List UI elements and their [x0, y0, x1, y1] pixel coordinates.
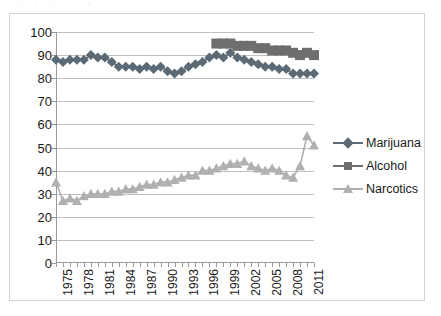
chart-frame: 1009080706050403020100 19751978198119841… — [9, 13, 425, 301]
x-axis-tick-label: 1993 — [187, 269, 201, 296]
x-axis-tick-mark — [209, 263, 210, 267]
legend-item-alcohol[interactable]: Alcohol — [333, 155, 407, 177]
diamond-marker-icon — [342, 137, 353, 148]
x-axis-tick-mark — [84, 263, 85, 267]
y-axis-tick-label: 70 — [38, 94, 52, 109]
x-axis-tick-label: 2008 — [291, 269, 305, 296]
x-axis-tick-mark — [91, 263, 92, 267]
legend-swatch — [333, 136, 363, 150]
data-point — [302, 131, 312, 140]
x-axis-tick-mark — [279, 263, 280, 267]
x-axis-tick-mark — [216, 263, 217, 267]
x-axis-tick-label: 2011 — [312, 269, 326, 295]
x-axis-tick-label: 1975 — [61, 269, 75, 296]
data-point — [309, 50, 319, 60]
x-axis-tick-mark — [272, 263, 273, 267]
legend-label: Marijuana — [366, 136, 421, 150]
x-axis-tick-mark — [188, 263, 189, 267]
x-axis-tick-mark — [161, 263, 162, 267]
y-axis-tick-label: 30 — [38, 186, 52, 201]
x-axis-tick-mark — [182, 263, 183, 267]
x-axis-tick-mark — [230, 263, 231, 267]
x-axis-tick-mark — [314, 263, 315, 267]
legend-item-marijuana[interactable]: Marijuana — [333, 132, 421, 154]
x-axis-tick-mark — [244, 263, 245, 267]
y-axis-tick-label: 10 — [38, 232, 52, 247]
x-axis-tick-mark — [251, 263, 252, 267]
x-axis-tick-mark — [147, 263, 148, 267]
legend-swatch — [333, 182, 363, 196]
x-axis-tick-mark — [195, 263, 196, 267]
x-axis-tick-mark — [237, 263, 238, 267]
chart-legend: MarijuanaAlcoholNarcotics — [333, 132, 429, 206]
x-axis-tick-label: 1984 — [124, 269, 138, 296]
x-axis-tick-mark — [265, 263, 266, 267]
y-axis-tick-label: 50 — [38, 140, 52, 155]
x-axis-tick-mark — [307, 263, 308, 267]
legend-label: Alcohol — [366, 159, 407, 173]
x-axis-tick-mark — [293, 263, 294, 267]
series-narcotics — [51, 131, 319, 205]
x-axis-tick-label: 1996 — [207, 269, 221, 296]
y-axis-tick-label: 0 — [45, 256, 52, 271]
x-axis-tick-mark — [105, 263, 106, 267]
y-axis-tick-label: 40 — [38, 163, 52, 178]
x-axis-tick-mark — [175, 263, 176, 267]
x-axis-tick-mark — [286, 263, 287, 267]
x-axis-tick-mark — [140, 263, 141, 267]
x-axis-tick-mark — [223, 263, 224, 267]
x-axis-tick-mark — [300, 263, 301, 267]
x-axis-tick-label: 1987 — [145, 269, 159, 296]
x-axis-tick-mark — [112, 263, 113, 267]
data-point — [51, 177, 61, 186]
plot-area — [56, 32, 314, 263]
x-axis-tick-mark — [258, 263, 259, 267]
legend-item-narcotics[interactable]: Narcotics — [333, 178, 418, 200]
x-axis-tick-label: 1999 — [228, 269, 242, 296]
x-axis-tick-mark — [133, 263, 134, 267]
x-axis-ticks — [56, 263, 314, 268]
x-axis-tick-label: 1978 — [82, 269, 96, 296]
x-axis-tick-label: 2005 — [270, 269, 284, 296]
legend-label: Narcotics — [366, 182, 418, 196]
series-line — [56, 136, 314, 201]
x-axis-labels: 1975197819811984198719901993199619992002… — [56, 269, 318, 315]
data-point — [309, 69, 319, 79]
data-point — [239, 156, 249, 165]
y-axis-tick-label: 80 — [38, 71, 52, 86]
legend-swatch — [333, 159, 363, 173]
x-axis-tick-label: 2002 — [249, 269, 263, 296]
x-axis-tick-label: 1990 — [166, 269, 180, 296]
y-axis-tick-label: 90 — [38, 48, 52, 63]
x-axis-tick-mark — [98, 263, 99, 267]
series-layer — [56, 32, 314, 263]
x-axis-tick-mark — [70, 263, 71, 267]
data-point — [295, 161, 305, 170]
square-marker-icon — [344, 162, 352, 170]
x-axis-tick-mark — [63, 263, 64, 267]
x-axis-tick-mark — [202, 263, 203, 267]
y-axis-tick-label: 100 — [30, 25, 52, 40]
x-axis-tick-mark — [77, 263, 78, 267]
y-axis-tick-label: 20 — [38, 209, 52, 224]
x-axis-tick-mark — [119, 263, 120, 267]
y-axis-labels: 1009080706050403020100 — [10, 32, 52, 263]
data-point — [65, 193, 75, 202]
x-axis-tick-mark — [56, 263, 57, 267]
x-axis-tick-mark — [154, 263, 155, 267]
clipped-header-text: · · · · · · — [0, 0, 441, 9]
x-axis-tick-label: 1981 — [103, 269, 117, 296]
data-point — [267, 163, 277, 172]
x-axis-tick-mark — [126, 263, 127, 267]
triangle-marker-icon — [343, 184, 353, 193]
x-axis-tick-mark — [168, 263, 169, 267]
y-axis-tick-label: 60 — [38, 117, 52, 132]
chart-screenshot: · · · · · · 1009080706050403020100 19751… — [0, 0, 441, 316]
